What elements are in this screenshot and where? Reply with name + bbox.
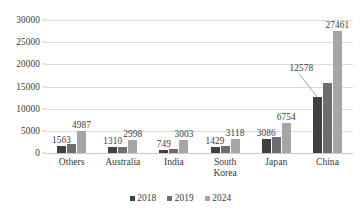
bar[interactable] <box>128 140 137 153</box>
x-axis-category-label: Japan <box>251 156 302 178</box>
legend-label: 2019 <box>175 193 194 203</box>
x-axis-category-label: Australia <box>97 156 148 178</box>
bar[interactable] <box>67 144 76 153</box>
legend-swatch-icon <box>130 196 135 201</box>
x-axis-category-label: China <box>302 156 353 178</box>
legend-label: 2024 <box>212 193 231 203</box>
data-label: 3086 <box>257 128 276 138</box>
bar-groups <box>46 20 353 153</box>
data-label: 3003 <box>174 129 193 139</box>
legend-label: 2018 <box>137 193 156 203</box>
bar[interactable] <box>323 83 332 153</box>
bar[interactable] <box>77 131 86 153</box>
bar-group <box>46 20 97 153</box>
bar[interactable] <box>108 147 117 153</box>
bar[interactable] <box>118 147 127 153</box>
bar[interactable] <box>159 150 168 153</box>
bars <box>302 20 353 153</box>
y-axis-tick-label: 20000 <box>16 59 40 69</box>
data-label: 2998 <box>123 129 142 139</box>
bar[interactable] <box>231 139 240 153</box>
y-axis: 050001000015000200002500030000 <box>0 20 40 153</box>
bar[interactable] <box>221 146 230 153</box>
legend-item[interactable]: 2024 <box>205 193 232 203</box>
bar[interactable] <box>272 137 281 153</box>
bar-group <box>302 20 353 153</box>
bar[interactable] <box>313 97 322 153</box>
bars <box>46 20 97 153</box>
y-axis-tick-label: 25000 <box>16 37 40 47</box>
data-label: 1429 <box>206 136 225 146</box>
bar[interactable] <box>262 139 271 153</box>
bar[interactable] <box>333 31 342 153</box>
bar[interactable] <box>282 123 291 153</box>
legend-item[interactable]: 2018 <box>130 193 157 203</box>
data-label: 749 <box>157 139 171 149</box>
bar[interactable] <box>57 146 66 153</box>
bar[interactable] <box>179 140 188 153</box>
x-axis-category-label: India <box>148 156 199 178</box>
x-axis-labels: OthersAustraliaIndiaSouth KoreaJapanChin… <box>46 156 353 178</box>
legend-swatch-icon <box>167 196 172 201</box>
y-axis-tick-label: 0 <box>35 148 40 158</box>
y-axis-tick-label: 15000 <box>16 82 40 92</box>
data-label: 3118 <box>226 128 245 138</box>
legend: 201820192024 <box>0 193 361 203</box>
data-label: 12578 <box>290 63 314 73</box>
y-axis-tick-label: 10000 <box>16 104 40 114</box>
data-label: 1310 <box>103 136 122 146</box>
x-axis-category-label: Others <box>46 156 97 178</box>
y-axis-tick-label: 30000 <box>16 15 40 25</box>
legend-item[interactable]: 2019 <box>167 193 194 203</box>
data-label: 27461 <box>326 20 350 30</box>
data-label: 1563 <box>52 135 71 145</box>
data-label: 6754 <box>277 112 296 122</box>
y-axis-tick-label: 5000 <box>21 126 40 136</box>
axis-baseline <box>46 153 353 154</box>
bar-chart: 050001000015000200002500030000 OthersAus… <box>0 0 361 216</box>
legend-swatch-icon <box>205 196 210 201</box>
x-axis-category-label: South Korea <box>200 156 251 178</box>
bar[interactable] <box>169 149 178 153</box>
data-label: 4987 <box>72 120 91 130</box>
bar[interactable] <box>211 147 220 153</box>
